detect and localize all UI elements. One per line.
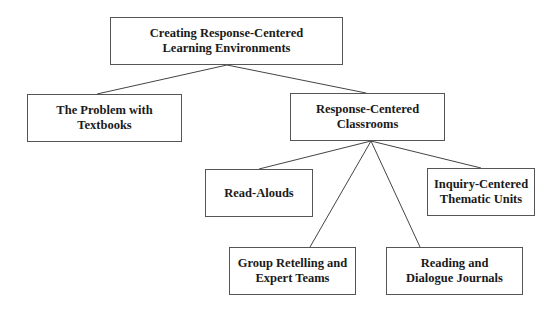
- edge-classrooms-inquiry: [371, 141, 481, 168]
- node-inquiry-centered-units: Inquiry-Centered Thematic Units: [427, 168, 535, 216]
- edge-classrooms-group: [310, 141, 371, 247]
- node-problem-with-textbooks: The Problem with Textbooks: [27, 94, 182, 142]
- node-response-centered-classrooms: Response-Centered Classrooms: [290, 93, 445, 141]
- edge-root-classrooms: [227, 65, 366, 93]
- node-read-alouds: Read-Alouds: [205, 169, 313, 217]
- diagram-canvas: Creating Response-Centered Learning Envi…: [0, 0, 560, 311]
- edge-root-problem: [97, 65, 227, 94]
- node-group-retelling: Group Retelling and Expert Teams: [229, 247, 356, 295]
- edge-classrooms-reading: [371, 141, 420, 247]
- node-root: Creating Response-Centered Learning Envi…: [110, 17, 343, 65]
- node-reading-dialogue-journals: Reading and Dialogue Journals: [386, 247, 523, 295]
- edge-classrooms-readalouds: [259, 141, 371, 169]
